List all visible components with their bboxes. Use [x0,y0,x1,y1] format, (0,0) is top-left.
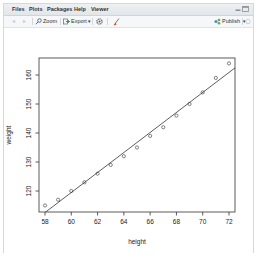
data-point [135,146,138,149]
x-tick-label: 58 [41,218,49,225]
x-tick-label: 66 [147,218,155,225]
regression-line [38,67,237,218]
data-point [43,204,46,207]
y-tick-label: 140 [25,127,32,138]
data-point [175,114,178,117]
y-tick-label: 150 [25,98,32,109]
x-tick-label: 62 [94,218,102,225]
x-axis: 5860626466687072 [41,212,233,225]
y-tick-label: 120 [25,185,32,196]
data-point [149,134,152,137]
y-tick-label: 160 [25,69,32,80]
plot-frame [39,58,235,212]
x-tick-label: 72 [225,218,233,225]
x-tick-label: 70 [199,218,207,225]
x-tick-label: 60 [68,218,76,225]
x-axis-label: height [128,238,146,246]
y-axis: 120130140150160 [25,69,39,196]
data-points [43,62,230,207]
data-point [227,62,230,65]
y-axis-label: weight [5,125,13,145]
data-point [122,155,125,158]
data-point [162,126,165,129]
x-tick-label: 68 [173,218,181,225]
x-tick-label: 64 [120,218,128,225]
data-point [57,198,60,201]
data-point [214,76,217,79]
y-tick-label: 130 [25,156,32,167]
